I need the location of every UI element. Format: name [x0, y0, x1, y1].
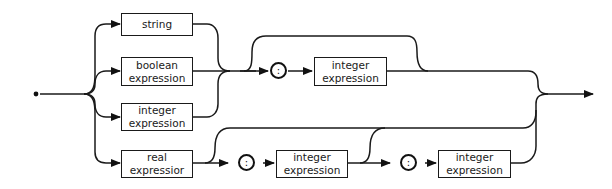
string-label: string: [142, 18, 172, 31]
integer-left-label-line2: expression: [129, 117, 186, 130]
boolean-label-line2: expression: [129, 72, 186, 85]
colon-circle-top: :: [270, 62, 287, 79]
integer-expression-box-bottom-2: integer expression: [438, 150, 511, 178]
integer-left-label-line1: integer: [138, 104, 176, 117]
string-box: string: [121, 13, 193, 36]
integer-expression-box-bottom-1: integer expression: [276, 150, 348, 178]
real-label-line1: real: [147, 151, 167, 164]
start-dot: [34, 92, 39, 97]
integer-bottom1-label-line1: integer: [293, 151, 331, 164]
integer-bottom2-label-line1: integer: [456, 151, 494, 164]
colon-top-label: :: [277, 66, 280, 76]
real-expression-box: real expressior: [121, 150, 193, 178]
integer-top-label-line1: integer: [332, 59, 370, 72]
colon-bottom1-label: :: [245, 158, 248, 168]
integer-expression-box-left: integer expression: [121, 103, 193, 131]
integer-bottom2-label-line2: expression: [446, 164, 503, 177]
colon-circle-bottom-1: :: [238, 154, 255, 171]
boolean-label-line1: boolean: [136, 59, 178, 72]
integer-expression-box-top: integer expression: [314, 57, 387, 86]
boolean-expression-box: boolean expression: [121, 57, 193, 86]
integer-bottom1-label-line2: expression: [284, 164, 341, 177]
real-label-line2: expressior: [130, 164, 184, 177]
colon-bottom2-label: :: [407, 158, 410, 168]
integer-top-label-line2: expression: [322, 72, 379, 85]
colon-circle-bottom-2: :: [400, 154, 417, 171]
